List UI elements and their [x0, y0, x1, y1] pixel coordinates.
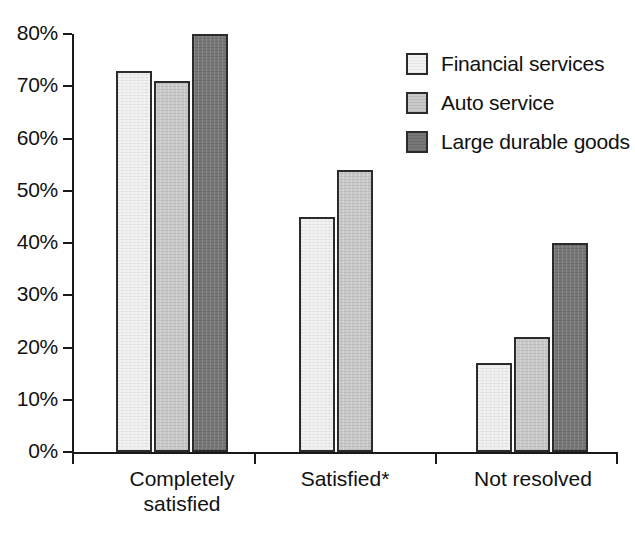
x-axis-tick-1: [254, 454, 256, 464]
x-axis-label-not-resolved: Not resolved: [448, 466, 618, 491]
legend-item-auto-service[interactable]: Auto service: [406, 83, 630, 122]
legend-item-large-durable-goods[interactable]: Large durable goods: [406, 122, 630, 161]
x-axis-line: [72, 452, 618, 454]
legend-swatch-icon: [406, 53, 428, 75]
bar-satisfied-financial-services[interactable]: [299, 217, 335, 452]
x-axis-tick-2: [435, 454, 437, 464]
bar-completely-satisfied-large-durable-goods[interactable]: [192, 34, 228, 452]
bar-not-resolved-large-durable-goods[interactable]: [552, 243, 588, 452]
x-axis-tick-start: [72, 454, 74, 464]
bar-chart: 80% 70% 60% 50% 40% 30% 20% 10% 0%: [0, 0, 635, 539]
x-axis-label-satisfied: Satisfied*: [265, 466, 425, 491]
bar-completely-satisfied-financial-services[interactable]: [116, 71, 152, 453]
legend: Financial services Auto service Large du…: [406, 44, 630, 161]
legend-swatch-icon: [406, 92, 428, 114]
legend-item-label: Auto service: [441, 91, 554, 115]
legend-item-label: Large durable goods: [441, 130, 630, 154]
legend-swatch-icon: [406, 131, 428, 153]
bar-not-resolved-auto-service[interactable]: [514, 337, 550, 452]
bar-completely-satisfied-auto-service[interactable]: [154, 81, 190, 452]
x-axis-tick-end: [616, 454, 618, 464]
x-axis-label-completely-satisfied: Completely satisfied: [92, 466, 272, 516]
bar-not-resolved-financial-services[interactable]: [476, 363, 512, 452]
bar-satisfied-auto-service[interactable]: [337, 170, 373, 452]
legend-item-financial-services[interactable]: Financial services: [406, 44, 630, 83]
legend-item-label: Financial services: [441, 52, 604, 76]
